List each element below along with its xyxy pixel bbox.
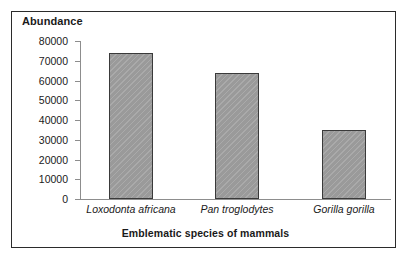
y-tick-mark bbox=[75, 140, 80, 141]
x-axis-line bbox=[80, 199, 391, 200]
x-axis-title: Emblematic species of mammals bbox=[0, 227, 411, 239]
y-tick-mark bbox=[75, 160, 80, 161]
y-tick-label: 70000 bbox=[39, 55, 68, 67]
y-tick-mark bbox=[75, 81, 80, 82]
y-tick-label: 40000 bbox=[39, 114, 68, 126]
y-tick-label: 20000 bbox=[39, 154, 68, 166]
y-tick-label: 80000 bbox=[39, 35, 68, 47]
bar-2 bbox=[322, 130, 366, 199]
y-tick-label: 10000 bbox=[39, 173, 68, 185]
bar-1 bbox=[215, 73, 259, 199]
y-tick-mark bbox=[75, 100, 80, 101]
y-tick-label: 30000 bbox=[39, 134, 68, 146]
y-tick-mark bbox=[75, 179, 80, 180]
y-tick-label: 50000 bbox=[39, 94, 68, 106]
category-label-1: Pan troglodytes bbox=[201, 203, 274, 215]
y-tick-mark bbox=[75, 120, 80, 121]
category-label-0: Loxodonta africana bbox=[86, 203, 175, 215]
y-tick-label: 60000 bbox=[39, 75, 68, 87]
y-tick-mark bbox=[75, 41, 80, 42]
bar-0 bbox=[109, 53, 153, 199]
y-tick-label: 0 bbox=[62, 193, 68, 205]
chart-figure: Abundance 80000 70000 60000 50000 40000 … bbox=[0, 0, 411, 261]
y-tick-mark bbox=[75, 199, 80, 200]
y-axis-title: Abundance bbox=[22, 15, 83, 27]
y-tick-mark bbox=[75, 61, 80, 62]
category-label-2: Gorilla gorilla bbox=[313, 203, 374, 215]
